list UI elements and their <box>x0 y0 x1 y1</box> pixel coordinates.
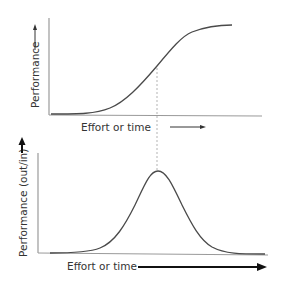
bottom-y-label: Performance (out/in) <box>17 149 29 257</box>
top-x-arrow-icon <box>170 125 206 129</box>
bell-curve <box>50 171 265 254</box>
diagram-canvas: Performance Effort or time Performance (… <box>0 0 284 288</box>
top-x-label: Effort or time <box>81 121 151 133</box>
bottom-x-label: Effort or time <box>67 260 137 272</box>
bottom-x-arrow-icon <box>138 263 267 271</box>
top-chart: Performance Effort or time <box>29 18 262 133</box>
top-y-label: Performance <box>29 41 41 108</box>
top-x-axis <box>49 115 262 116</box>
s-curve <box>51 25 232 114</box>
bottom-chart: Performance (out/in) Effort or time <box>17 137 268 272</box>
